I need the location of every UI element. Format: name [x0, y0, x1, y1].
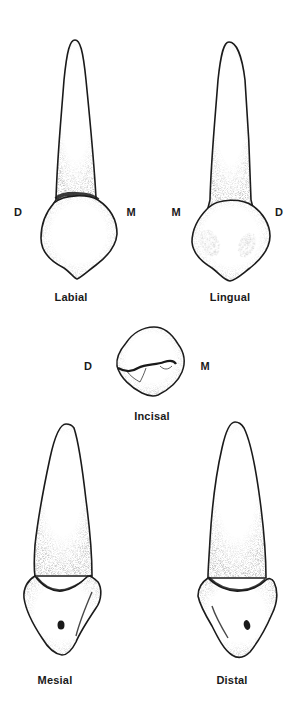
lingual-caption: Lingual: [210, 291, 251, 303]
labial-caption: Labial: [55, 291, 88, 303]
mesial-view: Mesial: [0, 410, 150, 725]
incisal-right-direction: M: [200, 360, 209, 372]
labial-view: D M Labial: [0, 0, 150, 310]
lingual-left-direction: M: [171, 206, 180, 218]
distal-view: Distal: [150, 410, 301, 725]
mesial-tooth-illustration: [0, 410, 150, 725]
labial-right-direction: M: [126, 206, 135, 218]
incisal-left-direction: D: [84, 360, 92, 372]
mesial-caption: Mesial: [38, 674, 73, 686]
labial-tooth-illustration: [0, 0, 150, 310]
lingual-right-direction: D: [275, 206, 283, 218]
distal-caption: Distal: [216, 674, 247, 686]
lingual-view: M D Lingual: [150, 0, 301, 310]
lingual-tooth-illustration: [150, 0, 301, 310]
labial-left-direction: D: [14, 206, 22, 218]
incisal-view: D M Incisal: [60, 310, 250, 420]
